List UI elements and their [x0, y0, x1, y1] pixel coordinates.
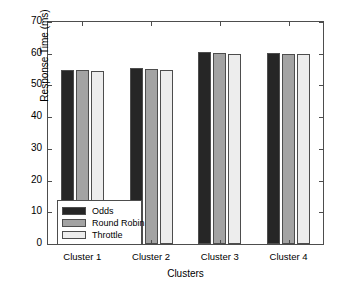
y-axis-label: Response Time (ms): [39, 0, 50, 136]
legend-label: Throttle: [92, 230, 123, 240]
x-axis-tick-mark-top: [289, 22, 290, 26]
y-axis-tick-mark: [48, 244, 52, 245]
legend-label: Round Robin: [92, 218, 145, 228]
bar-round-robin-cluster-2: [145, 69, 158, 244]
y-axis-tick-mark: [48, 212, 52, 213]
x-axis-tick-mark: [151, 240, 152, 244]
x-axis-tick-label: Cluster 1: [63, 251, 101, 262]
bar-round-robin-cluster-4: [282, 54, 295, 244]
legend-item: Odds: [62, 205, 137, 216]
legend-swatch-odds: [62, 207, 86, 215]
legend-swatch-round-robin: [62, 219, 86, 227]
x-axis-tick-mark-top: [82, 22, 83, 26]
bar-odds-cluster-3: [198, 52, 211, 244]
y-axis-tick-label: 10: [31, 205, 42, 216]
x-axis-tick-label: Cluster 4: [270, 251, 308, 262]
x-axis-tick-label: Cluster 3: [201, 251, 239, 262]
bar-round-robin-cluster-3: [213, 53, 226, 244]
y-axis-tick-mark-right: [319, 117, 323, 118]
y-axis-tick-mark-right: [319, 244, 323, 245]
y-axis-tick-label: 20: [31, 174, 42, 185]
y-axis-tick-label: 30: [31, 142, 42, 153]
bar-throttle-cluster-4: [297, 54, 310, 244]
y-axis-tick-mark-right: [319, 212, 323, 213]
y-axis-tick-mark-right: [319, 54, 323, 55]
x-axis-tick-mark: [289, 240, 290, 244]
y-axis-tick-mark-right: [319, 22, 323, 23]
y-axis-tick-mark: [48, 181, 52, 182]
y-axis-tick-mark-right: [319, 85, 323, 86]
x-axis-tick-mark-top: [220, 22, 221, 26]
y-axis-tick-mark-right: [319, 181, 323, 182]
x-axis-tick-mark-top: [151, 22, 152, 26]
y-axis-tick-mark: [48, 149, 52, 150]
chart-legend: OddsRound RobinThrottle: [57, 200, 142, 245]
y-axis-tick-mark-right: [319, 149, 323, 150]
legend-item: Round Robin: [62, 217, 137, 228]
bar-throttle-cluster-2: [160, 70, 173, 244]
x-axis-label: Clusters: [47, 268, 324, 279]
legend-swatch-throttle: [62, 231, 86, 239]
legend-item: Throttle: [62, 229, 137, 240]
x-axis-tick-label: Cluster 2: [132, 251, 170, 262]
legend-label: Odds: [92, 206, 114, 216]
y-axis-tick-label: 0: [36, 237, 42, 248]
bar-chart-figure: 010203040506070Cluster 1Cluster 2Cluster…: [0, 0, 342, 290]
bar-throttle-cluster-3: [228, 54, 241, 244]
bar-odds-cluster-4: [267, 53, 280, 244]
x-axis-tick-mark: [220, 240, 221, 244]
